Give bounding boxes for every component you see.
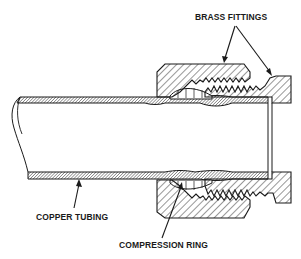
label-copper-tubing: COPPER TUBING — [36, 212, 108, 222]
copper-tubing — [12, 96, 272, 181]
label-brass-fittings: BRASS FITTINGS — [195, 12, 267, 22]
label-compression-ring: COMPRESSION RING — [119, 240, 208, 250]
